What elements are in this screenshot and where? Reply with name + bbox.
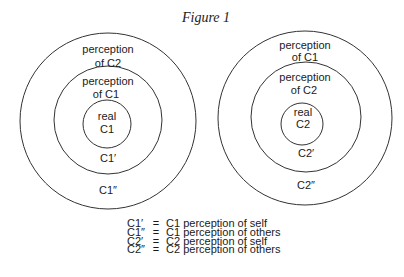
c2-outer-label-line2: of C1 [292, 51, 318, 63]
legend-equals: = [149, 245, 163, 254]
c1-inner-label-line1: real [98, 110, 116, 122]
c1-inner-label-line2: C1 [100, 123, 114, 135]
c2-middle-bottom-label: C2′ [298, 147, 314, 159]
c1-outer-label-line1: perception [82, 43, 133, 55]
legend-key: C2″ [127, 245, 149, 254]
legend: C1′= C1 perception of self C1″= C1 perce… [127, 219, 280, 254]
c2-inner-label-line1: real [294, 106, 312, 118]
legend-row: C2″= C2 perception of others [127, 245, 280, 254]
c2-middle-label-line2: of C2 [291, 84, 317, 96]
c1-outer-label-line2: of C2 [95, 57, 121, 69]
legend-description: C2 perception of others [166, 243, 280, 255]
c2-middle-label-line1: perception [279, 71, 330, 83]
c1-outer-bottom-label: C1″ [99, 184, 117, 196]
c2-outer-bottom-label: C2″ [297, 179, 315, 191]
diagram-c1: perception of C2 perception of C1 real C… [20, 33, 196, 209]
diagram-c2: perception of C1 perception of C2 real C… [218, 31, 392, 205]
c1-middle-label-line2: of C1 [93, 88, 119, 100]
c2-outer-label-line1: perception [279, 39, 330, 51]
c1-middle-label-line1: perception [82, 75, 133, 87]
figure-title: Figure 1 [181, 10, 230, 25]
c2-inner-label-line2: C2 [296, 118, 310, 130]
c1-middle-bottom-label: C1′ [100, 152, 116, 164]
